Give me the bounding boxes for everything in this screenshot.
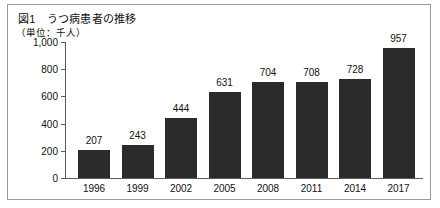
bar (122, 145, 154, 178)
bar (296, 82, 328, 178)
bar-group: 957 (378, 42, 420, 178)
x-axis-category-label: 2014 (334, 183, 376, 194)
y-axis-tick-mark (61, 42, 66, 43)
x-axis-category-label: 1999 (117, 183, 159, 194)
y-axis-tick-label: 800 (41, 64, 58, 75)
bar-value-label: 708 (291, 67, 333, 78)
bar-group: 243 (117, 42, 159, 178)
bar-group: 444 (160, 42, 202, 178)
bar-group: 708 (291, 42, 333, 178)
chart-plot-area: 02004006008001,000 207199624319994442002… (65, 42, 423, 178)
x-axis-category-label: 2002 (160, 183, 202, 194)
y-axis-tick-label: 600 (41, 91, 58, 102)
y-axis-line (65, 42, 66, 178)
bar-group: 207 (73, 42, 115, 178)
x-axis-category-label: 2008 (247, 183, 289, 194)
bar (339, 79, 371, 178)
bar-value-label: 704 (247, 67, 289, 78)
bar-group: 704 (247, 42, 289, 178)
y-axis-tick-mark (61, 69, 66, 70)
bar-value-label: 631 (204, 77, 246, 88)
bar-value-label: 207 (73, 135, 115, 146)
x-axis-category-label: 2011 (291, 183, 333, 194)
bar-value-label: 444 (160, 103, 202, 114)
y-axis-tick-mark (61, 151, 66, 152)
bar (383, 48, 415, 178)
bar-group: 728 (334, 42, 376, 178)
y-axis-tick-mark (61, 96, 66, 97)
bar-group: 631 (204, 42, 246, 178)
y-axis-tick-label: 0 (52, 173, 58, 184)
y-axis-tick-label: 1,000 (33, 37, 58, 48)
x-axis-category-label: 2017 (378, 183, 420, 194)
bar (252, 82, 284, 178)
bar-value-label: 243 (117, 130, 159, 141)
y-axis-tick-mark (61, 124, 66, 125)
y-axis-tick-label: 200 (41, 145, 58, 156)
x-axis-line (65, 178, 423, 179)
y-axis-tick-label: 400 (41, 118, 58, 129)
bar (209, 92, 241, 178)
bar (78, 150, 110, 178)
x-axis-category-label: 1996 (73, 183, 115, 194)
figure-title: 図1 うつ病患者の推移 (18, 10, 136, 26)
figure-panel: 図1 うつ病患者の推移 （単位：千人） 02004006008001,000 2… (7, 4, 431, 200)
x-axis-category-label: 2005 (204, 183, 246, 194)
bar (165, 118, 197, 178)
bar-value-label: 957 (378, 33, 420, 44)
bar-value-label: 728 (334, 64, 376, 75)
y-axis-tick-mark (61, 178, 66, 179)
